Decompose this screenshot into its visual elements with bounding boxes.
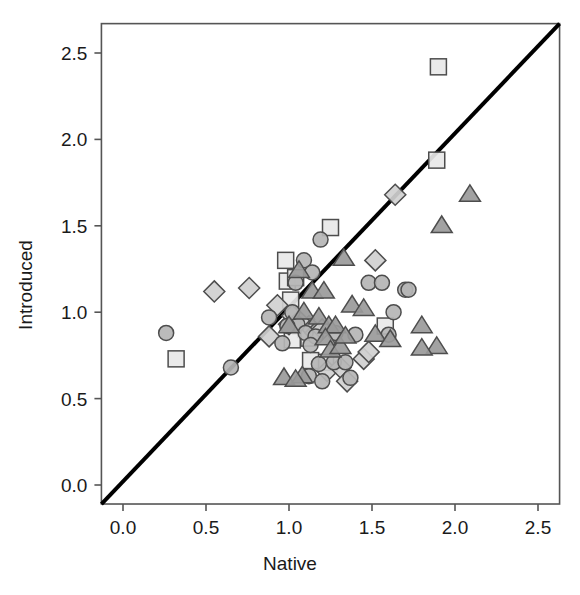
y-tick-label: 0.5: [61, 389, 87, 410]
y-tick-label: 2.0: [61, 129, 87, 150]
data-point-square: [430, 59, 446, 75]
data-point-circle: [275, 336, 290, 351]
x-tick-label: 2.5: [525, 517, 551, 538]
data-point-circle: [343, 370, 358, 385]
data-point-circle: [262, 310, 277, 325]
y-tick-label: 0.0: [61, 475, 87, 496]
data-point-circle: [313, 232, 328, 247]
y-tick-label: 1.5: [61, 216, 87, 237]
data-point-circle: [315, 374, 330, 389]
y-tick-label: 1.0: [61, 302, 87, 323]
y-axis-title: Introduced: [15, 240, 36, 330]
x-axis-title: Native: [263, 553, 317, 574]
scatter-plot-figure: 0.00.51.01.52.02.50.00.51.01.52.02.5 Nat…: [0, 0, 580, 595]
data-point-circle: [159, 325, 174, 340]
data-point-circle: [311, 357, 326, 372]
x-tick-label: 1.5: [359, 517, 385, 538]
data-point-square: [429, 152, 445, 168]
x-tick-label: 1.0: [276, 517, 302, 538]
data-point-square: [278, 252, 294, 268]
data-point-circle: [386, 305, 401, 320]
y-tick-label: 2.5: [61, 43, 87, 64]
data-point-square: [168, 351, 184, 367]
plot-canvas: 0.00.51.01.52.02.50.00.51.01.52.02.5 Nat…: [0, 0, 580, 595]
data-point-circle: [223, 360, 238, 375]
x-tick-label: 0.0: [110, 517, 136, 538]
data-point-circle: [401, 282, 416, 297]
x-tick-label: 0.5: [193, 517, 219, 538]
data-point-circle: [374, 275, 389, 290]
x-tick-label: 2.0: [442, 517, 468, 538]
